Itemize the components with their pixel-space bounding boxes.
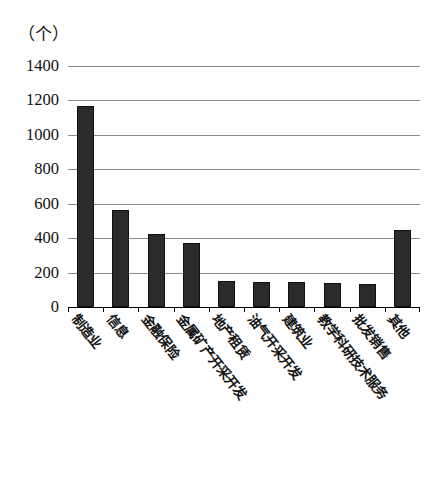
y-axis-tick-label: 200 — [34, 264, 59, 281]
bar — [253, 282, 270, 307]
bar — [148, 234, 165, 307]
x-axis-category-label: 制造业 — [69, 312, 104, 351]
y-axis-tick-label: 1400 — [26, 58, 59, 75]
bar — [218, 281, 235, 307]
bar — [288, 282, 305, 307]
y-axis-unit-label: （个） — [18, 26, 69, 43]
bars-layer — [68, 66, 420, 307]
y-axis-tick-label: 0 — [51, 299, 59, 316]
bar — [394, 230, 411, 307]
bar — [183, 243, 200, 307]
y-axis-tick-label: 600 — [34, 195, 59, 212]
bar — [359, 284, 376, 307]
plot-area: 1400120010008006004002000 — [68, 66, 420, 307]
x-axis-category-labels: 制造业信息金融保险金属矿产开采开发地产租赁油气开采开发建筑业教学科研技术服务批发… — [68, 312, 428, 472]
x-axis-category-label: 信息 — [104, 312, 131, 341]
y-axis-tick-label: 400 — [34, 230, 59, 247]
y-axis-tick-label: 1200 — [26, 92, 59, 109]
x-axis-category-label: 建筑业 — [280, 312, 315, 351]
bar — [324, 283, 341, 307]
y-axis-tick-label: 1000 — [26, 127, 59, 144]
bar — [77, 106, 94, 307]
bar-chart-figure: （个） 1400120010008006004002000 制造业信息金融保险金… — [0, 0, 439, 477]
x-axis-category-label: 其他 — [386, 312, 413, 341]
y-axis-tick-label: 800 — [34, 161, 59, 178]
bar — [112, 210, 129, 307]
